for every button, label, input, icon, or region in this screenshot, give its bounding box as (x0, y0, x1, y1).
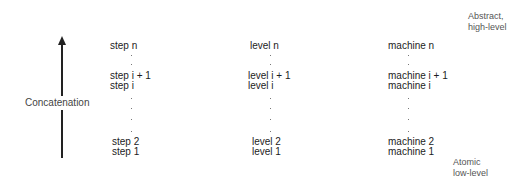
level-i: level i (248, 80, 274, 91)
atomic-label-line1: Atomic (453, 157, 481, 168)
ellipsis-dot (408, 98, 409, 99)
level-n: level n (250, 40, 279, 51)
abstract-label-line1: Abstract, (468, 11, 504, 22)
ellipsis-dot (408, 108, 409, 109)
machine-1: machine 1 (388, 146, 434, 157)
ellipsis-dot (408, 55, 409, 56)
abstract-label-line2: high-level (468, 22, 507, 33)
step-1: step 1 (112, 146, 139, 157)
ellipsis-dot (131, 55, 132, 56)
level-1: level 1 (252, 146, 281, 157)
machine-n: machine n (388, 40, 434, 51)
ellipsis-dot (270, 119, 271, 120)
ellipsis-dot (270, 131, 271, 132)
ellipsis-dot (131, 119, 132, 120)
atomic-label-line2: low-level (453, 168, 488, 179)
concatenation-label: Concatenation (25, 96, 90, 110)
ellipsis-dot (408, 64, 409, 65)
step-n: step n (110, 40, 137, 51)
ellipsis-dot (131, 108, 132, 109)
machine-i: machine i (388, 80, 431, 91)
step-i: step i (110, 80, 134, 91)
ellipsis-dot (270, 108, 271, 109)
ellipsis-dot (270, 98, 271, 99)
ellipsis-dot (131, 98, 132, 99)
ellipsis-dot (270, 55, 271, 56)
ellipsis-dot (131, 131, 132, 132)
ellipsis-dot (270, 64, 271, 65)
ellipsis-dot (131, 64, 132, 65)
ellipsis-dot (408, 119, 409, 120)
ellipsis-dot (408, 131, 409, 132)
